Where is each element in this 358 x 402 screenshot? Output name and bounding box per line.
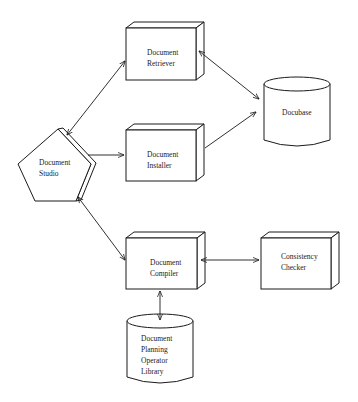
label-line: Document [141,333,172,344]
label-line: Installer [147,160,178,171]
edge-retriever-docubase [199,51,259,99]
edge-studio-compiler [78,197,125,260]
label-document-studio: Document Studio [39,157,70,179]
label-line: Docubase [282,107,312,118]
label-document-compiler: Document Compiler [150,257,181,279]
architecture-diagram [0,0,358,402]
label-line: Compiler [150,268,181,279]
label-line: Operator [141,355,172,366]
label-line: Planning [141,344,172,355]
label-line: Document [147,47,178,58]
label-consistency-checker: Consistency Checker [281,251,318,273]
label-line: Checker [281,262,318,273]
edge-studio-retriever [67,61,125,135]
label-document-retriever: Document Retriever [147,47,178,69]
label-line: Document [150,257,181,268]
label-line: Document [147,149,178,160]
label-docubase: Docubase [282,107,312,118]
label-document-installer: Document Installer [147,149,178,171]
label-document-planning-operator-library: Document Planning Operator Library [141,333,172,377]
label-line: Retriever [147,58,178,69]
label-line: Library [141,366,172,377]
label-line: Document [39,157,70,168]
label-line: Consistency [281,251,318,262]
label-line: Studio [39,168,70,179]
edge-installer-docubase [205,112,256,148]
